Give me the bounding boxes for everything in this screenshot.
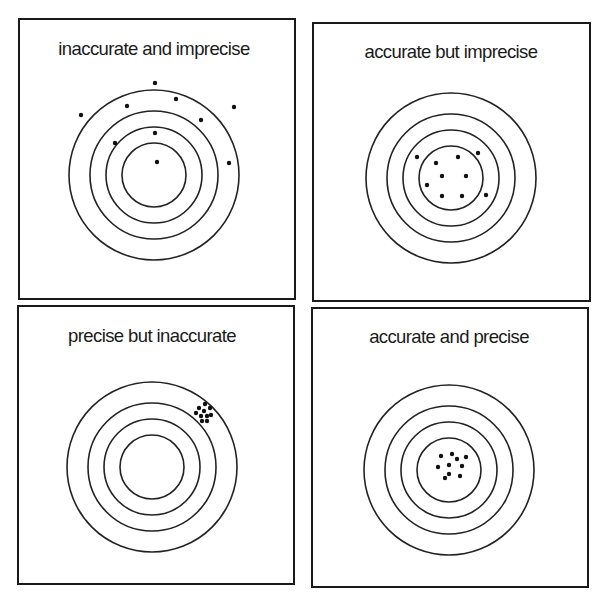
hit-dot: [440, 174, 444, 178]
target-inaccurate-imprecise: [69, 81, 239, 260]
hit-dot: [450, 452, 454, 456]
target-ring-3: [401, 422, 497, 518]
target-ring-2: [387, 114, 515, 242]
hit-dot: [203, 402, 207, 406]
hit-dot: [434, 161, 438, 165]
hit-dot: [205, 419, 209, 423]
hit-dot: [447, 463, 451, 467]
target-ring-2: [90, 111, 218, 239]
hit-dot: [436, 465, 440, 469]
hit-dot: [227, 161, 231, 165]
target-ring-2: [385, 406, 513, 534]
target-ring-3: [403, 130, 499, 226]
hit-dot: [194, 411, 198, 415]
target-accurate-precise: [364, 385, 534, 555]
hit-dot: [202, 409, 206, 413]
target-ring-3: [106, 127, 202, 223]
target-accurate-imprecise: [366, 93, 536, 263]
hit-dot: [199, 118, 203, 122]
hit-dot: [460, 194, 464, 198]
target-ring-1: [366, 93, 536, 263]
hit-dot: [174, 97, 178, 101]
target-ring-4: [120, 435, 184, 499]
hit-dot: [200, 419, 204, 423]
hit-dot: [484, 193, 488, 197]
hit-dot: [205, 414, 209, 418]
hit-dot: [455, 457, 459, 461]
hit-dot: [443, 476, 447, 480]
target-ring-1: [364, 385, 534, 555]
hit-dot: [425, 183, 429, 187]
hit-dot: [155, 160, 159, 164]
hit-dot: [464, 455, 468, 459]
hit-dot: [464, 174, 468, 178]
hit-dot: [458, 474, 462, 478]
hit-dot: [199, 414, 203, 418]
target-ring-1: [69, 90, 239, 260]
target-ring-2: [88, 403, 216, 531]
hit-dot: [415, 155, 419, 159]
hit-dot: [125, 104, 129, 108]
hit-dot: [439, 454, 443, 458]
hit-dot: [460, 464, 464, 468]
hit-dot: [209, 413, 213, 417]
target-ring-3: [104, 419, 200, 515]
hit-dot: [476, 151, 480, 155]
target-ring-4: [417, 438, 481, 502]
target-precise-inaccurate: [67, 382, 237, 552]
accuracy-precision-figure: inaccurate and imprecise accurate but im…: [0, 0, 610, 606]
hit-dot: [153, 81, 157, 85]
target-ring-4: [419, 146, 483, 210]
hit-dot: [232, 105, 236, 109]
hit-dot: [208, 406, 212, 410]
hit-dot: [456, 155, 460, 159]
targets-layer: [0, 0, 610, 606]
hit-dot: [79, 113, 83, 117]
hit-dot: [153, 131, 157, 135]
hit-dot: [197, 406, 201, 410]
target-ring-4: [122, 143, 186, 207]
hit-dot: [447, 472, 451, 476]
hit-dot: [440, 194, 444, 198]
hit-dot: [113, 141, 117, 145]
